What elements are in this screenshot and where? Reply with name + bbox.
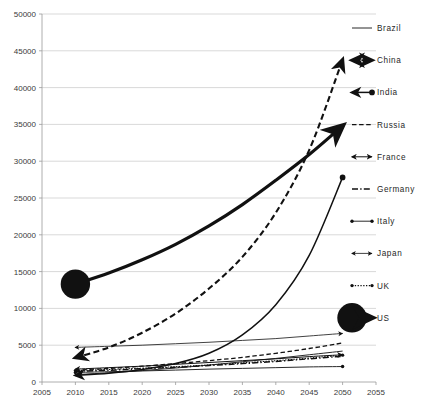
y-tick-label: 15000 — [14, 268, 37, 277]
legend-label-uk[interactable]: UK — [377, 282, 390, 291]
chart-title-clipped — [60, 0, 380, 6]
x-axis-ticks — [42, 382, 376, 385]
series-line-china — [75, 60, 342, 358]
legend-label-brazil[interactable]: Brazil — [377, 24, 401, 33]
y-axis-labels: 0500010000150002000025000300003500040000… — [14, 10, 37, 387]
chart-legend: BrazilChinaIndiaRussiaFranceGermanyItaly… — [352, 24, 415, 323]
legend-label-russia[interactable]: Russia — [377, 121, 406, 130]
chart-container: 0500010000150002000025000300003500040000… — [0, 0, 432, 413]
legend-label-france[interactable]: France — [377, 153, 406, 162]
y-tick-label: 10000 — [14, 304, 37, 313]
y-tick-label: 20000 — [14, 231, 37, 240]
y-tick-label: 40000 — [14, 84, 37, 93]
x-tick-label: 2035 — [234, 388, 252, 397]
x-tick-label: 2025 — [167, 388, 185, 397]
series-line-us — [75, 126, 342, 284]
legend-label-china[interactable]: China — [377, 56, 401, 65]
y-tick-label: 25000 — [14, 194, 37, 203]
line-chart: 0500010000150002000025000300003500040000… — [0, 0, 432, 413]
series-layer — [75, 60, 342, 376]
legend-label-italy[interactable]: Italy — [377, 217, 395, 226]
legend-label-india[interactable]: India — [377, 88, 398, 97]
y-tick-label: 30000 — [14, 157, 37, 166]
gridlines — [42, 14, 376, 345]
x-tick-label: 2015 — [100, 388, 118, 397]
y-tick-label: 35000 — [14, 120, 37, 129]
x-tick-label: 2050 — [334, 388, 352, 397]
y-tick-label: 5000 — [18, 341, 36, 350]
x-axis-labels: 2005201020152020202520302035204020452050… — [33, 388, 385, 397]
x-tick-label: 2045 — [300, 388, 318, 397]
y-axis-ticks — [39, 14, 42, 382]
y-tick-label: 50000 — [14, 10, 37, 19]
x-tick-label: 2030 — [200, 388, 218, 397]
x-tick-label: 2005 — [33, 388, 51, 397]
legend-label-japan[interactable]: Japan — [377, 249, 402, 258]
y-tick-label: 45000 — [14, 47, 37, 56]
x-tick-label: 2010 — [67, 388, 85, 397]
x-tick-label: 2040 — [267, 388, 285, 397]
x-tick-label: 2020 — [133, 388, 151, 397]
y-tick-label: 0 — [32, 378, 37, 387]
legend-label-germany[interactable]: Germany — [377, 185, 415, 194]
legend-label-us[interactable]: US — [377, 314, 390, 323]
x-tick-label: 2055 — [367, 388, 385, 397]
